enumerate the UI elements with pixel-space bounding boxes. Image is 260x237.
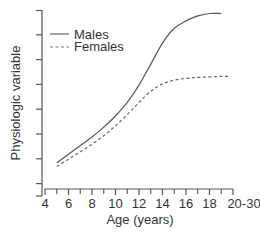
x-tick-label: 10 <box>108 196 122 211</box>
x-tick-label: 4 <box>41 196 48 211</box>
series-females <box>57 76 229 166</box>
x-tick-label: 20-30 <box>227 196 260 211</box>
x-tick-label: 14 <box>155 196 169 211</box>
legend-females-label: Females <box>74 39 124 54</box>
x-axis-label: Age (years) <box>106 212 173 227</box>
x-axis: 468101214161820-30 <box>41 189 260 211</box>
x-tick-label: 8 <box>88 196 95 211</box>
x-tick-label: 12 <box>132 196 146 211</box>
growth-chart: 468101214161820-30 Males Females Age (ye… <box>0 0 260 237</box>
y-axis <box>36 10 42 196</box>
x-tick-label: 6 <box>65 196 72 211</box>
legend: Males Females <box>50 27 124 54</box>
x-tick-label: 16 <box>179 196 193 211</box>
x-tick-label: 18 <box>202 196 216 211</box>
y-axis-label: Physiologic variable <box>8 46 23 161</box>
